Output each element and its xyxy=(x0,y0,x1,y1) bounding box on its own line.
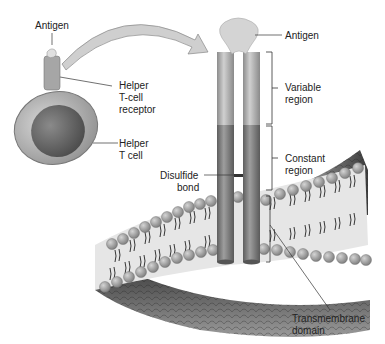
label-variable-region-2: region xyxy=(285,94,313,105)
label-variable-region-1: Variable xyxy=(285,82,321,93)
label-constant-region-2: region xyxy=(285,165,313,176)
label-disulfide-bond-1: Disulfide xyxy=(160,170,198,181)
antigen-small xyxy=(47,49,56,58)
antigen-molecule xyxy=(220,18,259,54)
label-helper-tcell-2: T cell xyxy=(119,150,143,161)
label-helper-tcell-receptor-2: T-cell xyxy=(119,92,143,103)
disulfide-bond xyxy=(234,174,243,177)
label-transmembrane-2: domain xyxy=(292,325,325,336)
label-transmembrane-1: Transmembrane xyxy=(292,313,365,324)
t-cell-receptor-stalk xyxy=(44,56,60,90)
receptor-chain-left xyxy=(217,52,234,265)
receptor-chain-right xyxy=(243,52,260,265)
label-helper-tcell-1: Helper xyxy=(119,138,148,149)
label-disulfide-bond-2: bond xyxy=(177,182,199,193)
label-constant-region-1: Constant xyxy=(285,153,325,164)
label-antigen-right: Antigen xyxy=(285,30,319,41)
label-helper-tcell-receptor-3: receptor xyxy=(119,104,156,115)
label-helper-tcell-receptor-1: Helper xyxy=(119,80,148,91)
label-antigen-left: Antigen xyxy=(35,20,69,31)
curved-arrow-icon xyxy=(62,25,208,70)
